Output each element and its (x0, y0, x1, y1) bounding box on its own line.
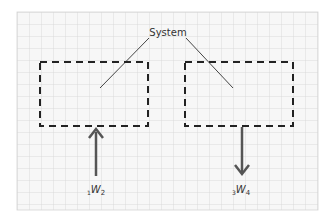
system-label: System (149, 27, 186, 38)
svg-text:System: System (149, 27, 186, 38)
grid-lines (17, 12, 318, 210)
system-work-diagram: System 1W2 3W4 (0, 0, 328, 220)
